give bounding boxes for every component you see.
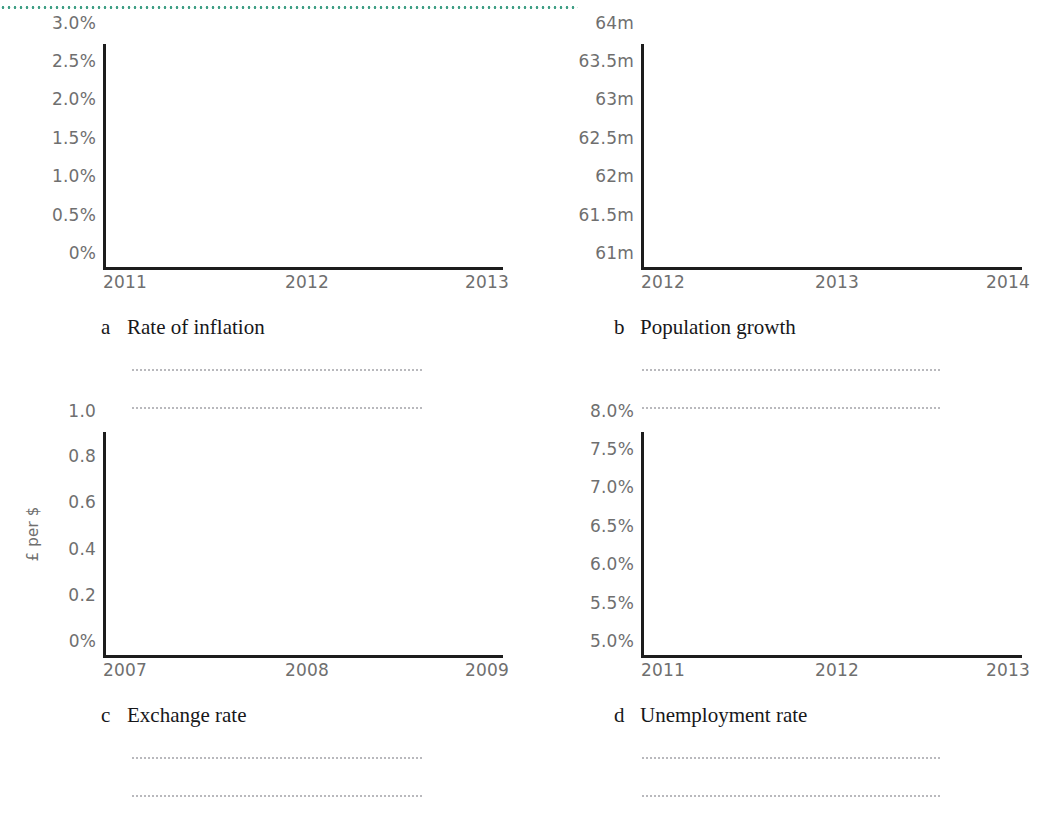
y-tick-label: 2.0% <box>52 91 96 108</box>
x-tick-label: 2008 <box>285 660 329 680</box>
y-tick-label: 1.0% <box>52 168 96 185</box>
y-tick-label: 6.5% <box>590 518 634 535</box>
chart-d-x-tick-labels: 2011 2012 2013 <box>641 660 1022 686</box>
y-tick-label: 0.4 <box>68 541 96 558</box>
chart-b-y-tick-labels: 64m 63.5m 63m 62.5m 62m 61.5m 61m <box>558 22 634 270</box>
x-tick-label: 2011 <box>641 660 685 680</box>
chart-c-exchange-rate: £ per $ 1.0 0.8 0.6 0.4 0.2 0% 2007 2008… <box>0 410 527 688</box>
x-tick-label: 2013 <box>465 272 509 292</box>
chart-d-y-tick-labels: 8.0% 7.5% 7.0% 6.5% 6.0% 5.5% 5.0% <box>558 410 634 658</box>
y-tick-label: 6.0% <box>590 556 634 573</box>
caption-text-d: Unemployment rate <box>640 703 807 727</box>
worksheet-page: { "page": { "background_color": "#ffffff… <box>0 0 1053 821</box>
caption-letter-c: c <box>101 703 127 728</box>
caption-letter-d: d <box>614 703 640 728</box>
y-tick-label: 2.5% <box>52 53 96 70</box>
caption-text-b: Population growth <box>640 315 796 339</box>
x-tick-label: 2009 <box>465 660 509 680</box>
panel-d: 8.0% 7.5% 7.0% 6.5% 6.0% 5.5% 5.0% 2011 … <box>526 410 1053 800</box>
answer-line-a-1[interactable] <box>131 369 424 371</box>
y-tick-label: 5.5% <box>590 595 634 612</box>
y-tick-label: 1.0 <box>68 403 96 420</box>
caption-d: dUnemployment rate <box>614 703 807 728</box>
y-tick-label: 7.0% <box>590 479 634 496</box>
chart-b-x-axis <box>641 267 1022 270</box>
chart-b-x-tick-labels: 2012 2013 2014 <box>641 272 1022 298</box>
y-tick-label: 0.5% <box>52 207 96 224</box>
y-tick-label: 1.5% <box>52 130 96 147</box>
chart-c-x-tick-labels: 2007 2008 2009 <box>103 660 503 686</box>
y-tick-label: 62m <box>595 168 634 185</box>
chart-d-unemployment-rate: 8.0% 7.5% 7.0% 6.5% 6.0% 5.5% 5.0% 2011 … <box>526 410 1053 688</box>
y-tick-label: 0% <box>69 245 96 262</box>
y-tick-label: 3.0% <box>52 15 96 32</box>
y-tick-label: 61.5m <box>579 207 634 224</box>
caption-letter-b: b <box>614 315 640 340</box>
x-tick-label: 2012 <box>815 660 859 680</box>
answer-line-b-2[interactable] <box>641 407 940 409</box>
y-tick-label: 7.5% <box>590 441 634 458</box>
answer-line-b-1[interactable] <box>641 369 940 371</box>
y-tick-label: 0.6 <box>68 494 96 511</box>
x-tick-label: 2012 <box>285 272 329 292</box>
top-dotted-rule <box>0 6 578 9</box>
chart-a-y-axis <box>103 44 106 270</box>
y-tick-label: 0.2 <box>68 587 96 604</box>
chart-d-y-axis <box>641 432 644 658</box>
answer-line-d-2[interactable] <box>641 795 940 797</box>
x-tick-label: 2013 <box>986 660 1030 680</box>
chart-b-y-axis <box>641 44 644 270</box>
panel-b: 64m 63.5m 63m 62.5m 62m 61.5m 61m 2012 2… <box>526 22 1053 412</box>
chart-b-population-growth: 64m 63.5m 63m 62.5m 62m 61.5m 61m 2012 2… <box>526 22 1053 300</box>
chart-a-x-axis <box>103 267 503 270</box>
caption-text-c: Exchange rate <box>127 703 247 727</box>
panel-c: £ per $ 1.0 0.8 0.6 0.4 0.2 0% 2007 2008… <box>0 410 527 800</box>
y-tick-label: 63.5m <box>579 53 634 70</box>
chart-a-x-tick-labels: 2011 2012 2013 <box>103 272 503 298</box>
x-tick-label: 2011 <box>103 272 147 292</box>
chart-c-y-axis <box>103 432 106 658</box>
caption-text-a: Rate of inflation <box>127 315 265 339</box>
y-tick-label: 8.0% <box>590 403 634 420</box>
caption-letter-a: a <box>101 315 127 340</box>
caption-b: bPopulation growth <box>614 315 796 340</box>
y-tick-label: 63m <box>595 91 634 108</box>
chart-a-rate-of-inflation: 3.0% 2.5% 2.0% 1.5% 1.0% 0.5% 0% 2011 20… <box>0 22 527 300</box>
y-tick-label: 0% <box>69 633 96 650</box>
y-tick-label: 5.0% <box>590 633 634 650</box>
caption-a: aRate of inflation <box>101 315 265 340</box>
x-tick-label: 2012 <box>641 272 685 292</box>
panel-a: 3.0% 2.5% 2.0% 1.5% 1.0% 0.5% 0% 2011 20… <box>0 22 527 412</box>
y-tick-label: 62.5m <box>579 130 634 147</box>
chart-c-y-tick-labels: 1.0 0.8 0.6 0.4 0.2 0% <box>20 410 96 658</box>
chart-c-x-axis <box>103 655 503 658</box>
x-tick-label: 2014 <box>986 272 1030 292</box>
y-tick-label: 61m <box>595 245 634 262</box>
answer-line-c-1[interactable] <box>131 757 424 759</box>
chart-a-y-tick-labels: 3.0% 2.5% 2.0% 1.5% 1.0% 0.5% 0% <box>20 22 96 270</box>
y-tick-label: 0.8 <box>68 448 96 465</box>
answer-line-d-1[interactable] <box>641 757 940 759</box>
chart-d-x-axis <box>641 655 1022 658</box>
answer-line-a-2[interactable] <box>131 407 424 409</box>
answer-line-c-2[interactable] <box>131 795 424 797</box>
x-tick-label: 2007 <box>103 660 147 680</box>
caption-c: cExchange rate <box>101 703 247 728</box>
y-tick-label: 64m <box>595 15 634 32</box>
x-tick-label: 2013 <box>815 272 859 292</box>
